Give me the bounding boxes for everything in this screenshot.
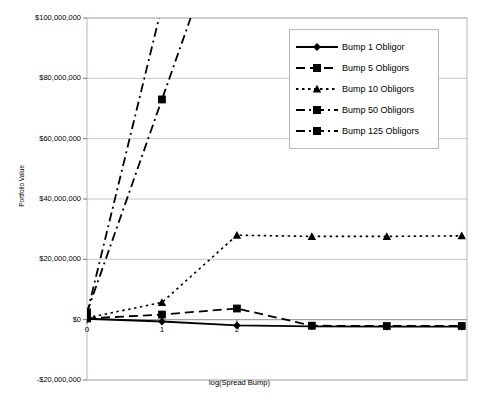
legend-item[interactable]: Bump 125 Obligors — [294, 120, 434, 141]
data-point-marker — [308, 232, 316, 240]
legend-item[interactable]: Bump 1 Obligor — [294, 36, 434, 57]
legend-label: Bump 10 Obligors — [340, 84, 414, 94]
chart-legend: Bump 1 ObligorBump 5 ObligorsBump 10 Obl… — [289, 29, 439, 149]
x-tick-label: 0 — [67, 325, 107, 334]
data-point-marker — [458, 322, 466, 330]
legend-label: Bump 125 Obligors — [340, 126, 419, 136]
y-tick-label: $0 — [73, 315, 81, 324]
y-tick-label: -$20,000,000 — [37, 375, 81, 384]
legend-marker-diamond-icon — [294, 40, 340, 54]
y-tick-label: $20,000,000 — [39, 254, 81, 263]
portfolio-value-chart: Portfolio Value log(Spread Bump) -$20,00… — [0, 0, 479, 406]
data-point-marker — [313, 127, 321, 135]
y-tick-label: $60,000,000 — [39, 134, 81, 143]
series-line-1 — [87, 309, 462, 327]
data-point-marker — [313, 106, 321, 114]
data-point-marker — [158, 311, 166, 319]
x-tick-label: 2 — [217, 325, 257, 334]
y-tick-label: $80,000,000 — [39, 73, 81, 82]
legend-label: Bump 1 Obligor — [340, 42, 405, 52]
y-tick-label: $100,000,000 — [35, 13, 81, 22]
x-tick-label: 1 — [142, 325, 182, 334]
legend-item[interactable]: Bump 10 Obligors — [294, 78, 434, 99]
data-point-marker — [233, 305, 241, 313]
data-point-marker — [83, 309, 91, 317]
y-axis-title: Portfolio Value — [18, 165, 25, 207]
legend-item[interactable]: Bump 50 Obligors — [294, 99, 434, 120]
legend-marker-square-icon — [294, 124, 340, 138]
data-point-marker — [313, 64, 321, 72]
data-point-marker — [383, 322, 391, 330]
data-point-marker — [158, 298, 166, 306]
series-line-2 — [87, 235, 462, 318]
data-point-marker — [158, 96, 166, 104]
legend-marker-square-icon — [294, 103, 340, 117]
data-point-marker — [458, 232, 466, 240]
data-point-marker — [308, 322, 316, 330]
legend-marker-square-icon — [294, 61, 340, 75]
legend-label: Bump 5 Obligors — [340, 63, 409, 73]
legend-item[interactable]: Bump 5 Obligors — [294, 57, 434, 78]
y-tick-label: $40,000,000 — [39, 194, 81, 203]
data-point-marker — [313, 43, 321, 51]
legend-marker-triangle-icon — [294, 82, 340, 96]
legend-label: Bump 50 Obligors — [340, 105, 414, 115]
data-point-marker — [158, 2, 166, 10]
